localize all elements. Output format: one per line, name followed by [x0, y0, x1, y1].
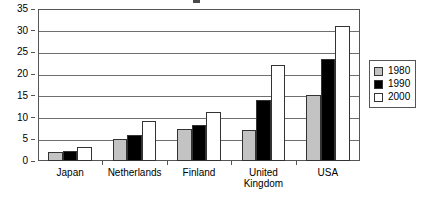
y-tick-label-0: 0 [22, 156, 28, 166]
bar-netherlands-1980 [113, 139, 128, 161]
y-tick-mark-15 [31, 95, 35, 96]
x-tick-mark-1 [102, 161, 103, 165]
x-tick-mark-3 [231, 161, 232, 165]
bar-united-kingdom-1980 [242, 130, 257, 161]
y-tick-label-25: 25 [17, 47, 28, 57]
bar-japan-1980 [48, 152, 63, 161]
y-tick-mark-25 [31, 52, 35, 53]
x-category-label-usa: USA [318, 167, 339, 178]
y-tick-mark-5 [31, 139, 35, 140]
y-tick-mark-30 [31, 30, 35, 31]
y-axis: 05101520253035 [0, 0, 36, 199]
y-tick-mark-0 [31, 161, 35, 162]
x-category-label-netherlands: Netherlands [108, 167, 162, 178]
y-tick-label-35: 35 [17, 4, 28, 14]
x-tick-mark-2 [167, 161, 168, 165]
bar-finland-2000 [206, 112, 221, 161]
y-tick-label-20: 20 [17, 69, 28, 79]
legend-item-1980: 1980 [374, 65, 410, 77]
y-tick-mark-35 [31, 9, 35, 10]
legend-swatch-2000 [374, 93, 383, 102]
bar-japan-1990 [63, 151, 78, 161]
legend-item-1990: 1990 [374, 78, 410, 90]
legend-item-2000: 2000 [374, 91, 410, 103]
y-tick-label-10: 10 [17, 113, 28, 123]
bar-usa-1990 [321, 59, 336, 161]
legend-label-1980: 1980 [388, 66, 410, 76]
bar-usa-2000 [335, 26, 350, 161]
y-tick-label-15: 15 [17, 91, 28, 101]
bars-layer [38, 9, 360, 161]
y-tick-label-30: 30 [17, 26, 28, 36]
bar-united-kingdom-1990 [256, 100, 271, 161]
x-category-label-japan: Japan [57, 167, 84, 178]
chart-legend: 1980 1990 2000 [369, 60, 416, 108]
bar-chart: 05101520253035 JapanNetherlandsFinlandUn… [0, 0, 425, 199]
legend-label-1990: 1990 [388, 79, 410, 89]
bar-finland-1990 [192, 125, 207, 161]
x-tick-mark-4 [296, 161, 297, 165]
y-tick-mark-20 [31, 74, 35, 75]
bar-finland-1980 [177, 129, 192, 161]
legend-swatch-1990 [374, 80, 383, 89]
cropped-title-remnant [193, 0, 200, 3]
bar-united-kingdom-2000 [271, 65, 286, 161]
y-tick-mark-10 [31, 117, 35, 118]
x-axis: JapanNetherlandsFinlandUnited KingdomUSA [38, 161, 360, 199]
legend-swatch-1980 [374, 67, 383, 76]
bar-usa-1980 [306, 95, 321, 161]
x-category-label-finland: Finland [183, 167, 216, 178]
x-category-label-united-kingdom: United Kingdom [244, 167, 283, 189]
bar-netherlands-2000 [142, 121, 157, 161]
legend-label-2000: 2000 [388, 92, 410, 102]
bar-netherlands-1990 [127, 135, 142, 161]
bar-japan-2000 [77, 147, 92, 161]
y-tick-label-5: 5 [22, 134, 28, 144]
